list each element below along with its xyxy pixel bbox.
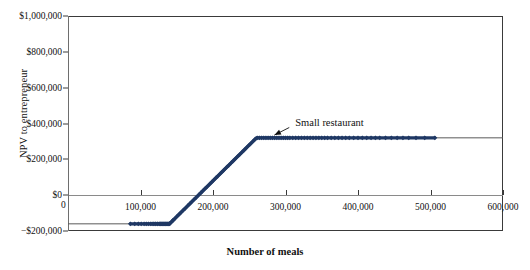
data-point-marker xyxy=(401,135,406,140)
data-point-marker xyxy=(356,135,361,140)
annotation-arrowhead xyxy=(274,130,281,135)
data-point-marker xyxy=(128,221,133,226)
data-point-marker xyxy=(395,135,400,140)
chart-figure: NPV to entrepreneur Number of meals −$20… xyxy=(0,0,530,270)
series-guide-line xyxy=(68,138,503,224)
data-point-marker xyxy=(432,135,437,140)
data-point-marker xyxy=(383,135,388,140)
data-point-marker xyxy=(406,135,411,140)
series-dense-band xyxy=(130,138,435,224)
data-point-marker xyxy=(377,135,382,140)
data-point-marker xyxy=(414,135,419,140)
data-point-marker xyxy=(360,135,365,140)
data-point-marker xyxy=(373,135,378,140)
data-point-marker xyxy=(364,135,369,140)
data-layer xyxy=(0,0,530,270)
data-point-marker xyxy=(369,135,374,140)
data-point-marker xyxy=(422,135,427,140)
data-point-marker xyxy=(389,135,394,140)
data-point-marker xyxy=(351,135,356,140)
data-point-marker xyxy=(347,135,352,140)
annotation-small-restaurant: Small restaurant xyxy=(295,117,364,128)
